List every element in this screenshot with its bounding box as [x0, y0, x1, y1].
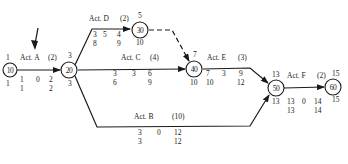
node-10: 10: [3, 63, 17, 77]
svg-text:13: 13: [287, 97, 295, 106]
svg-text:50: 50: [273, 84, 280, 93]
svg-text:3: 3: [132, 69, 136, 78]
activity-name: Act. E: [207, 53, 227, 62]
svg-text:14: 14: [314, 106, 322, 115]
svg-text:0: 0: [302, 97, 306, 106]
svg-text:3: 3: [138, 128, 142, 137]
activity-a-labels: Act. A (2) 1 0 2 1 2: [20, 53, 57, 93]
network-diagram: 10 20 30 40 50 60 1 1 3 3 5 10 7 10 13 1…: [0, 0, 348, 164]
activity-name: Act. A: [20, 53, 40, 62]
node-40: 40: [186, 61, 202, 77]
svg-text:9: 9: [117, 39, 121, 48]
node-40-early: 7: [193, 50, 197, 59]
node-30-late: 10: [136, 38, 144, 47]
svg-text:3: 3: [93, 30, 97, 39]
svg-text:9: 9: [239, 69, 243, 78]
svg-text:60: 60: [330, 83, 337, 92]
node-30: 30: [132, 22, 148, 38]
svg-text:5: 5: [103, 30, 107, 39]
svg-text:12: 12: [237, 78, 245, 87]
node-60-early: 15: [332, 69, 340, 78]
activity-name: Act. C: [121, 53, 141, 62]
svg-text:0: 0: [157, 128, 161, 137]
node-10-late: 1: [6, 79, 10, 88]
activity-b-labels: Act. B (10) 3 0 12 3 12: [134, 112, 185, 146]
activity-e-labels: Act. E (3) 7 3 9 10 12: [206, 53, 247, 87]
svg-text:2: 2: [49, 84, 53, 93]
activity-name: Act. B: [134, 112, 154, 121]
svg-text:6: 6: [148, 69, 152, 78]
svg-text:1: 1: [20, 75, 24, 84]
node-30-early: 5: [138, 11, 142, 20]
svg-text:6: 6: [113, 78, 117, 87]
node-20: 20: [61, 62, 77, 78]
activity-name: Act. D: [89, 14, 110, 23]
activity-f-labels: Act. F (2) 13 0 14 13 14: [287, 71, 326, 115]
svg-text:14: 14: [314, 97, 322, 106]
node-60: 60: [325, 79, 341, 95]
node-20-early: 3: [68, 51, 72, 60]
svg-text:30: 30: [137, 26, 144, 35]
svg-text:0: 0: [36, 75, 40, 84]
svg-text:3: 3: [222, 69, 226, 78]
svg-text:13: 13: [287, 106, 295, 115]
node-50: 50: [268, 80, 284, 96]
node-40-late: 10: [190, 78, 198, 87]
pointer-arrow-icon: [31, 28, 38, 50]
svg-text:12: 12: [174, 128, 182, 137]
svg-text:12: 12: [174, 137, 182, 146]
node-10-early: 1: [6, 53, 10, 62]
svg-text:10: 10: [206, 78, 214, 87]
svg-text:20: 20: [66, 66, 73, 75]
activity-duration: (3): [238, 53, 247, 62]
activity-duration: (10): [172, 112, 185, 121]
svg-text:10: 10: [7, 66, 14, 75]
svg-text:7: 7: [206, 69, 210, 78]
node-60-late: 15: [332, 95, 340, 104]
svg-text:3: 3: [138, 137, 142, 146]
svg-text:2: 2: [49, 75, 53, 84]
edge-act-f: [284, 87, 324, 88]
svg-text:8: 8: [93, 39, 97, 48]
svg-text:9: 9: [148, 78, 152, 87]
node-20-late: 3: [68, 79, 72, 88]
svg-text:3: 3: [113, 69, 117, 78]
node-50-early: 13: [272, 70, 280, 79]
activity-duration: (2): [317, 71, 326, 80]
activity-duration: (4): [150, 53, 159, 62]
activity-name: Act. F: [287, 71, 306, 80]
svg-text:4: 4: [117, 30, 121, 39]
svg-text:40: 40: [191, 65, 198, 74]
svg-text:1: 1: [20, 84, 24, 93]
activity-duration: (2): [120, 14, 129, 23]
activity-d-labels: Act. D (2) 3 5 4 8 9: [89, 14, 129, 48]
activity-duration: (2): [48, 53, 57, 62]
node-50-late: 13: [272, 97, 280, 106]
